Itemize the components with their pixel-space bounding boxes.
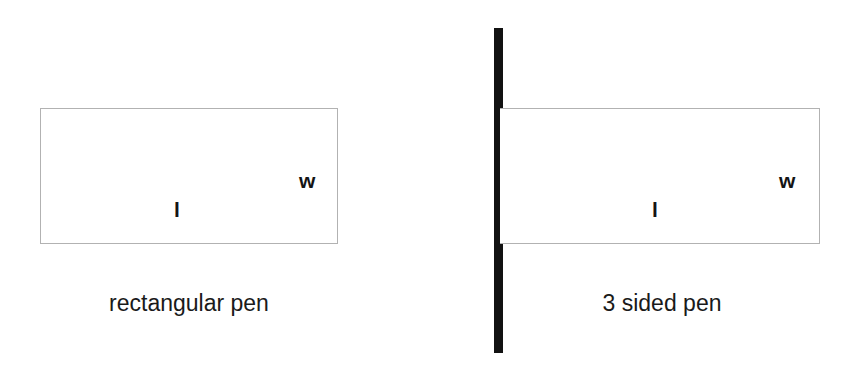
rectangular-pen-shape	[40, 108, 338, 244]
diagram-canvas: w l rectangular pen w l 3 sided pen	[0, 0, 855, 373]
three-sided-pen-shape	[500, 108, 820, 244]
three-sided-pen-length-label: l	[652, 199, 658, 220]
three-sided-pen-caption: 3 sided pen	[502, 292, 822, 315]
rectangular-pen-length-label: l	[174, 199, 180, 220]
three-sided-pen-width-label: w	[779, 170, 795, 191]
rectangular-pen-caption: rectangular pen	[40, 292, 338, 315]
rectangular-pen-width-label: w	[299, 170, 315, 191]
